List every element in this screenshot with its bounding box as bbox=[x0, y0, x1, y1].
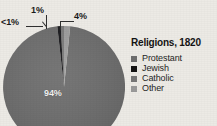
pie-chart-figure: <1% 1% 4% 94% Religions, 1820 Protestant… bbox=[0, 0, 217, 126]
legend-swatch-icon-other bbox=[131, 86, 137, 92]
legend-item-protestant: Protestant bbox=[131, 54, 215, 64]
leader-line-catholic bbox=[46, 15, 47, 29]
legend-label-other: Other bbox=[142, 84, 164, 93]
leader-line-other-hook bbox=[60, 21, 61, 30]
pie-chart-area bbox=[3, 26, 125, 126]
legend-item-other: Other bbox=[131, 84, 215, 94]
legend-swatch-icon-jewish bbox=[131, 66, 137, 72]
legend-label-jewish: Jewish bbox=[142, 64, 169, 73]
legend-title: Religions, 1820 bbox=[131, 37, 215, 48]
pie-svg bbox=[3, 26, 125, 126]
pie-label-catholic: 1% bbox=[31, 5, 44, 15]
legend-swatch-icon-protestant bbox=[131, 56, 137, 62]
legend-item-catholic: Catholic bbox=[131, 74, 215, 84]
legend-label-protestant: Protestant bbox=[142, 54, 182, 63]
legend-item-jewish: Jewish bbox=[131, 64, 215, 74]
leader-line-jewish bbox=[26, 26, 43, 27]
leader-line-other bbox=[60, 21, 74, 22]
pie-label-jewish: <1% bbox=[1, 17, 19, 27]
legend-swatch-icon-catholic bbox=[131, 76, 137, 82]
pie-label-other: 4% bbox=[74, 11, 87, 21]
legend: Religions, 1820 Protestant Jewish Cathol… bbox=[131, 37, 215, 94]
legend-label-catholic: Catholic bbox=[142, 74, 174, 83]
pie-label-protestant: 94% bbox=[44, 88, 62, 98]
